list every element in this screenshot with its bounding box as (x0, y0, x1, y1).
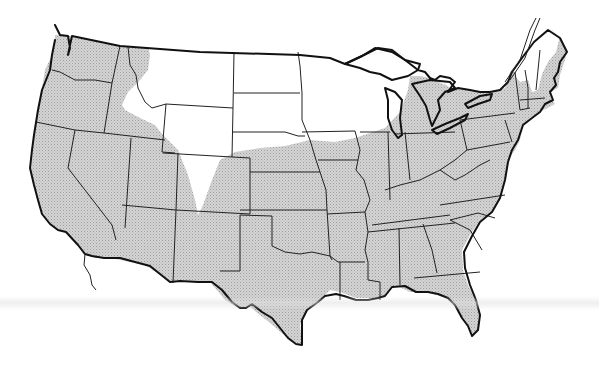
map-canvas (0, 0, 599, 377)
unshaded-region-northern-new-york (466, 70, 505, 92)
range-layer (0, 0, 599, 377)
baja-border-line (84, 254, 96, 290)
us-range-map (0, 0, 599, 377)
